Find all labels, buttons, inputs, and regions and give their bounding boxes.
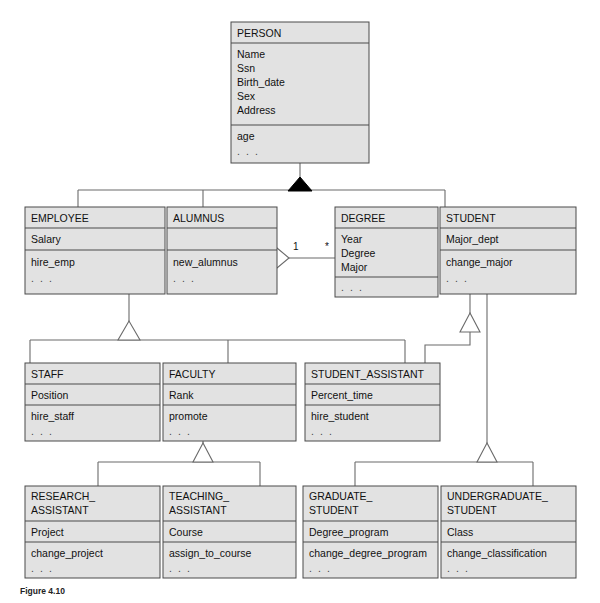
class-box-teaching-assistant[interactable]: TEACHING_ ASSISTANT Course assign_to_cou…: [163, 486, 296, 578]
operation-ellipsis: . . .: [447, 562, 470, 574]
attribute: Name: [237, 48, 265, 60]
operation-ellipsis: . . .: [446, 272, 469, 284]
operation-ellipsis: . . .: [169, 425, 192, 437]
class-box-staff[interactable]: STAFF Position hire_staff . . .: [25, 363, 160, 441]
class-name-person: PERSON: [237, 27, 281, 39]
attribute: Major_dept: [446, 233, 499, 245]
attribute: Year: [341, 233, 363, 245]
operation: change_major: [446, 256, 513, 268]
hollow-triangle-icon-student-lower: [477, 443, 497, 462]
attribute: Degree: [341, 247, 376, 259]
operation: hire_staff: [31, 410, 74, 422]
attribute: Salary: [31, 233, 62, 245]
class-box-degree[interactable]: DEGREE Year Degree Major . . .: [335, 207, 438, 297]
class-name-alumnus: ALUMNUS: [173, 212, 224, 224]
attribute: Course: [169, 526, 203, 538]
hollow-triangle-icon-faculty: [193, 443, 213, 462]
class-name-employee: EMPLOYEE: [31, 212, 89, 224]
class-name-faculty: FACULTY: [169, 368, 215, 380]
attribute: Degree_program: [309, 526, 389, 538]
operation-ellipsis: . . .: [169, 562, 192, 574]
attribute: Project: [31, 526, 64, 538]
operation: assign_to_course: [169, 547, 251, 559]
operation-ellipsis: . . .: [311, 425, 334, 437]
filled-triangle-icon: [288, 177, 312, 191]
operation: new_alumnus: [173, 256, 238, 268]
attribute: Address: [237, 104, 276, 116]
figure-caption: Figure 4.10: [20, 586, 65, 596]
operation-ellipsis: . . .: [173, 272, 196, 284]
class-box-undergraduate-student[interactable]: UNDERGRADUATE_ STUDENT Class change_clas…: [441, 486, 576, 578]
class-box-alumnus[interactable]: ALUMNUS new_alumnus . . .: [167, 207, 277, 294]
operation: hire_emp: [31, 256, 75, 268]
class-name-research-assistant: RESEARCH_: [31, 490, 95, 502]
operation-ellipsis: . . .: [237, 145, 260, 157]
attribute: Sex: [237, 90, 256, 102]
attribute: Ssn: [237, 62, 255, 74]
operation-ellipsis: . . .: [341, 281, 364, 293]
class-name-teaching-assistant: TEACHING_: [169, 490, 229, 502]
class-box-graduate-student[interactable]: GRADUATE_ STUDENT Degree_program change_…: [303, 486, 438, 578]
multiplicity-degree: *: [325, 241, 329, 252]
class-name-degree: DEGREE: [341, 212, 385, 224]
class-name-teaching-assistant-line2: ASSISTANT: [169, 504, 227, 516]
operation-ellipsis: . . .: [309, 562, 332, 574]
attribute: Birth_date: [237, 76, 285, 88]
connector-student-to-student-assistant: [425, 332, 470, 363]
hollow-triangle-icon-student-assistant: [460, 313, 480, 332]
class-name-student: STUDENT: [446, 212, 496, 224]
diagram-canvas: 1 * PERSON Name Ssn Birth_date Sex Addre…: [0, 0, 600, 603]
operation: change_project: [31, 547, 103, 559]
class-box-student-assistant[interactable]: STUDENT_ASSISTANT Percent_time hire_stud…: [305, 363, 440, 441]
class-name-research-assistant-line2: ASSISTANT: [31, 504, 89, 516]
operation-ellipsis: . . .: [31, 425, 54, 437]
operation: promote: [169, 410, 208, 422]
operation: change_degree_program: [309, 547, 427, 559]
class-box-faculty[interactable]: FACULTY Rank promote . . .: [163, 363, 296, 441]
attribute: Major: [341, 261, 368, 273]
attribute: Class: [447, 526, 473, 538]
class-box-person[interactable]: PERSON Name Ssn Birth_date Sex Address a…: [231, 22, 369, 163]
operation-ellipsis: . . .: [31, 562, 54, 574]
operation-ellipsis: . . .: [31, 272, 54, 284]
uml-class-diagram: 1 * PERSON Name Ssn Birth_date Sex Addre…: [0, 0, 600, 603]
operation: age: [237, 130, 255, 142]
class-box-research-assistant[interactable]: RESEARCH_ ASSISTANT Project change_proje…: [25, 486, 160, 578]
class-name-undergraduate-student: UNDERGRADUATE_: [447, 490, 548, 502]
class-name-graduate-student-line2: STUDENT: [309, 504, 359, 516]
hollow-triangle-icon-employee: [118, 321, 140, 340]
class-name-staff: STAFF: [31, 368, 63, 380]
class-box-student[interactable]: STUDENT Major_dept change_major . . .: [440, 207, 576, 294]
attribute: Position: [31, 389, 69, 401]
attribute: Rank: [169, 389, 194, 401]
operation: change_classification: [447, 547, 547, 559]
class-name-undergraduate-student-line2: STUDENT: [447, 504, 497, 516]
multiplicity-alumnus: 1: [293, 241, 299, 252]
attribute: Percent_time: [311, 389, 373, 401]
operation: hire_student: [311, 410, 369, 422]
class-name-student-assistant: STUDENT_ASSISTANT: [311, 368, 425, 380]
class-name-graduate-student: GRADUATE_: [309, 490, 373, 502]
class-box-employee[interactable]: EMPLOYEE Salary hire_emp . . .: [25, 207, 165, 294]
